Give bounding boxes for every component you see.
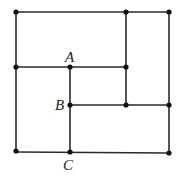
- point-top-right: [166, 9, 171, 14]
- point-a: [67, 64, 72, 69]
- point-top-inner: [123, 9, 128, 14]
- label-c: C: [63, 157, 74, 173]
- outer-bottom-edge: [16, 152, 169, 153]
- point-bottom-left: [13, 148, 18, 153]
- point-lower-right: [166, 102, 171, 107]
- point-b: [67, 102, 72, 107]
- point-top-left: [13, 9, 18, 14]
- label-a: A: [64, 49, 75, 65]
- point-mid-left: [13, 64, 18, 69]
- point-mid-inner: [123, 64, 128, 69]
- point-lower-inner: [123, 102, 128, 107]
- geometry-diagram: A B C: [0, 0, 180, 177]
- point-c: [67, 149, 72, 154]
- point-bottom-right: [166, 150, 171, 155]
- label-b: B: [55, 97, 64, 113]
